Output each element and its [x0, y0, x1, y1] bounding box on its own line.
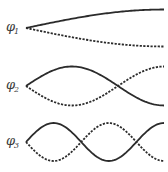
mode-2-label: φ2	[6, 78, 19, 91]
mode-3-curves	[26, 123, 164, 161]
mode-1-curves	[26, 10, 164, 47]
mode-1-label: φ1	[6, 20, 19, 33]
mode-1-solid-curve	[26, 10, 164, 29]
mode-2-subscript: 2	[14, 85, 19, 94]
mode-3-subscript: 3	[14, 141, 19, 150]
mode-shapes-diagram	[0, 0, 168, 172]
mode-3-label: φ3	[6, 134, 19, 147]
mode-2-curves	[26, 67, 164, 106]
mode-2-solid-curve	[26, 67, 164, 106]
mode-1-subscript: 1	[14, 27, 19, 36]
mode-1-dashed-curve	[26, 28, 164, 47]
